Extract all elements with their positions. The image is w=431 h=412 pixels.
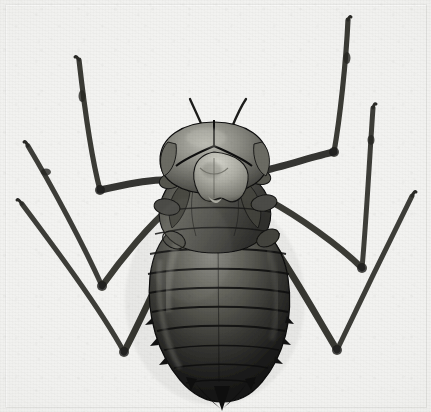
photographic-plate: [0, 0, 431, 412]
halftone-dot-texture: [0, 0, 431, 412]
